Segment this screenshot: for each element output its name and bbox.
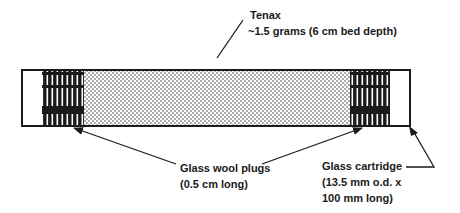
tenax-label-title: Tenax [250, 7, 281, 23]
glass-wool-plug-right [350, 71, 390, 125]
cartridge-label-title: Glass cartridge [322, 158, 402, 174]
tenax-leader-line [217, 20, 243, 58]
glass-wool-plug-left [42, 71, 84, 125]
tenax-bed [84, 71, 352, 125]
glass-wool-label-title: Glass wool plugs [180, 160, 270, 176]
cartridge-leader-line [406, 129, 434, 167]
glass-wool-label-detail: (0.5 cm long) [180, 176, 248, 192]
tenax-label-detail: ~1.5 grams (6 cm bed depth) [248, 23, 397, 39]
cartridge-label-detail-1: (13.5 mm o.d. x [322, 174, 401, 190]
cartridge-label-detail-2: 100 mm long) [322, 190, 393, 206]
glass-wool-arrow-left [74, 128, 176, 164]
